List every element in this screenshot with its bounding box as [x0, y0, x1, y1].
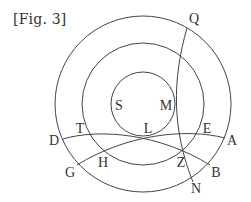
- label-e: E: [203, 121, 212, 136]
- outer-circle: [55, 16, 231, 192]
- label-t: T: [76, 121, 85, 136]
- label-l: L: [144, 121, 153, 136]
- label-a: A: [227, 133, 238, 148]
- label-n: N: [191, 181, 201, 196]
- label-d: D: [49, 133, 59, 148]
- label-h: H: [98, 155, 108, 170]
- label-z: Z: [177, 155, 186, 170]
- label-q: Q: [189, 11, 199, 26]
- label-s: S: [115, 98, 123, 113]
- label-b: B: [211, 165, 220, 180]
- label-g: G: [65, 165, 75, 180]
- label-m: M: [160, 98, 173, 113]
- middle-circle: [82, 43, 204, 165]
- geometry-diagram: Q S M T L E D A H Z G B N: [0, 0, 251, 202]
